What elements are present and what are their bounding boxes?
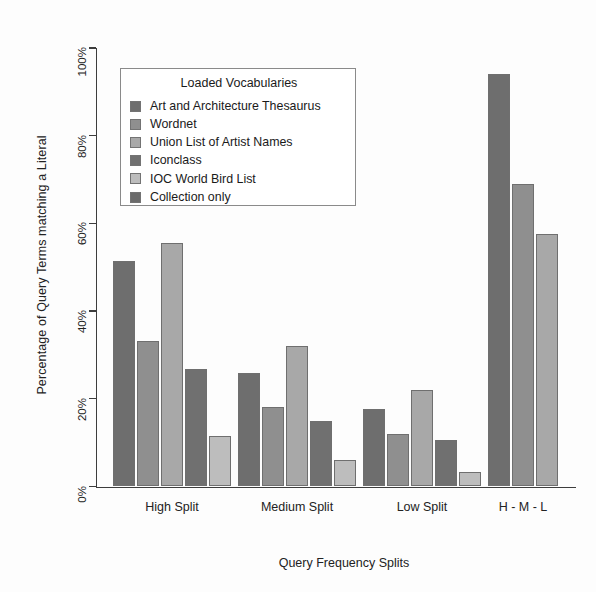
bar	[363, 409, 385, 486]
bar	[286, 346, 308, 486]
legend-item: Art and Architecture Thesaurus	[130, 97, 321, 115]
legend-item: IOC World Bird List	[130, 170, 321, 188]
legend-item: Wordnet	[130, 115, 321, 133]
bar	[459, 472, 481, 486]
legend-swatch-icon	[130, 137, 141, 148]
legend-title: Loaded Vocabularies	[121, 76, 357, 90]
legend-swatch-icon	[130, 155, 141, 166]
legend-item-label: Iconclass	[150, 154, 202, 166]
legend-swatch-icon	[130, 119, 141, 130]
bar	[113, 261, 135, 487]
legend-swatch-icon	[130, 101, 141, 112]
legend-item-label: Wordnet	[150, 118, 197, 130]
legend-item-label: IOC World Bird List	[150, 173, 256, 185]
bar	[334, 460, 356, 487]
legend-box: Loaded Vocabularies Art and Architecture…	[120, 68, 356, 206]
bar	[161, 243, 183, 487]
bar	[310, 421, 332, 487]
x-axis-title: Query Frequency Splits	[96, 556, 592, 570]
bar	[185, 369, 207, 487]
bar	[536, 234, 558, 486]
bar	[238, 373, 260, 486]
bar-chart-figure: Percentage of Query Terms matching a Lit…	[0, 0, 596, 592]
legend-swatch-icon	[130, 192, 141, 203]
legend-item-label: Union List of Artist Names	[150, 136, 293, 148]
legend-item: Collection only	[130, 188, 321, 206]
bar	[435, 440, 457, 486]
legend-swatch-icon	[130, 173, 141, 184]
bar	[137, 341, 159, 487]
legend-item-label: Collection only	[150, 191, 231, 203]
legend-item: Union List of Artist Names	[130, 133, 321, 151]
bar	[411, 390, 433, 486]
legend-item-list: Art and Architecture ThesaurusWordnetUni…	[130, 97, 321, 206]
bar	[512, 184, 534, 487]
bar	[488, 74, 510, 486]
bar	[262, 407, 284, 486]
bar	[387, 434, 409, 487]
legend-item-label: Art and Architecture Thesaurus	[150, 100, 321, 112]
bar	[209, 436, 231, 487]
legend-item: Iconclass	[130, 152, 321, 170]
